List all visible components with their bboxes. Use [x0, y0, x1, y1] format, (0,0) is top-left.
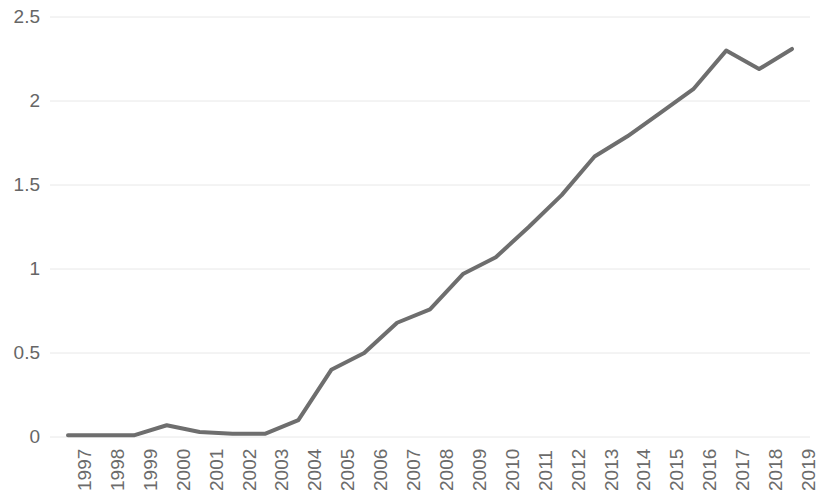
x-tick-label-1999: 1999: [141, 449, 160, 491]
x-tick-label-2018: 2018: [766, 449, 785, 491]
x-tick-label-2011: 2011: [536, 450, 555, 491]
x-tick-label-2000: 2000: [174, 449, 193, 491]
x-tick-label-2019: 2019: [799, 449, 818, 491]
x-tick-label-2007: 2007: [404, 449, 423, 491]
x-tick-label-2016: 2016: [700, 449, 719, 491]
x-tick-label-2006: 2006: [371, 449, 390, 491]
x-tick-label-2003: 2003: [272, 449, 291, 491]
x-tick-label-2002: 2002: [240, 449, 259, 491]
x-tick-label-2005: 2005: [338, 449, 357, 491]
x-tick-label-2017: 2017: [733, 449, 752, 491]
x-tick-label-2001: 2001: [207, 449, 226, 491]
x-tick-label-2009: 2009: [470, 449, 489, 491]
x-tick-label-2008: 2008: [437, 449, 456, 491]
x-tick-label-2010: 2010: [503, 449, 522, 491]
x-tick-label-1998: 1998: [108, 449, 127, 491]
x-tick-label-2015: 2015: [667, 449, 686, 491]
x-tick-label-2012: 2012: [569, 449, 588, 491]
x-tick-label-2004: 2004: [305, 449, 324, 491]
x-tick-label-2014: 2014: [634, 449, 653, 491]
x-tick-label-1997: 1997: [75, 449, 94, 491]
x-tick-label-2013: 2013: [602, 449, 621, 491]
